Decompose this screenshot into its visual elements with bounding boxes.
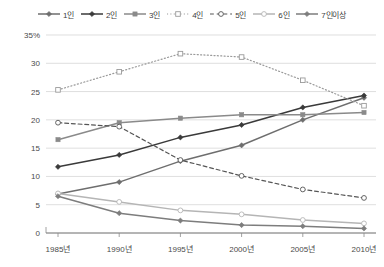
data-point [301,113,305,117]
data-point [239,143,244,148]
data-point [133,12,137,16]
series-line [55,95,366,196]
y-axis-tick-label: 0 [36,229,40,238]
data-point [117,179,122,184]
data-point [56,120,61,125]
data-point [178,135,183,140]
data-point [239,222,244,227]
legend-marker-icon [38,9,60,19]
data-point [362,196,367,201]
legend-item-5[interactable]: 5인 [210,9,246,20]
y-axis-tick-label: 10 [31,172,40,181]
data-point [262,12,267,17]
x-axis-labels: 1985년1990년1995년2000년2005년2010년 [46,240,376,260]
data-point [301,78,306,83]
legend-marker-icon [296,9,318,19]
legend-marker-icon [81,9,103,19]
data-point [117,152,122,157]
legend-label: 7인이상 [321,9,346,20]
data-point [362,110,366,114]
series-line [56,51,367,108]
data-point [361,226,366,231]
x-axis-tick-label: 1990년 [107,243,132,254]
data-point [300,224,305,229]
data-point [300,187,305,192]
data-point [176,12,181,17]
x-axis-tick-label: 1995년 [168,243,193,254]
legend-item-4[interactable]: 4인 [167,9,203,20]
y-axis-tick-label: 35% [24,31,40,40]
line-chart: 1인2인3인4인5인6인7인이상 05101520253035% 1985년19… [0,0,384,267]
legend-label: 5인 [235,9,246,20]
data-point [362,103,367,108]
series-path [58,96,364,167]
y-axis-tick-label: 5 [36,200,40,209]
data-point [178,116,182,120]
data-point [117,69,122,74]
data-point [56,88,61,93]
data-point [362,221,367,226]
series-path [58,98,364,194]
data-point [219,12,224,17]
data-point [55,164,60,169]
y-axis-labels: 05101520253035% [0,28,44,240]
legend-item-3[interactable]: 3인 [124,9,160,20]
data-point [117,124,122,129]
data-point [239,173,244,178]
data-point [178,208,183,213]
data-point [239,55,244,60]
series-path [58,123,364,198]
data-point [46,11,51,16]
legend-item-1[interactable]: 1인 [38,9,74,20]
data-point [56,138,60,142]
legend-marker-icon [253,9,275,19]
x-axis-tick-label: 2000년 [229,243,254,254]
data-point [239,122,244,127]
data-point [300,218,305,223]
data-point [239,212,244,217]
data-point [178,51,183,56]
data-point [117,199,122,204]
x-axis-tick-label: 2005년 [290,243,315,254]
data-point [300,105,305,110]
y-axis-tick-label: 15 [31,144,40,153]
x-axis-tick-label: 2010년 [352,243,377,254]
legend-label: 2인 [106,9,117,20]
legend-item-2[interactable]: 2인 [81,9,117,20]
series-path [58,54,364,106]
data-point [117,211,122,216]
plot-area [46,35,376,233]
legend-marker-icon [124,9,146,19]
y-axis-tick-label: 25 [31,87,40,96]
legend-item-7[interactable]: 7인이상 [296,9,346,20]
y-axis-tick-label: 20 [31,115,40,124]
data-point [240,113,244,117]
chart-legend: 1인2인3인4인5인6인7인이상 [0,4,384,24]
y-axis-tick-label: 30 [31,59,40,68]
data-point [89,11,94,16]
legend-label: 3인 [149,9,160,20]
series-path [58,113,364,140]
series-line [56,110,366,141]
legend-marker-icon [210,9,232,19]
legend-label: 6인 [278,9,289,20]
data-point [178,158,183,163]
data-point [300,117,305,122]
data-point [178,218,183,223]
series-line [55,93,366,169]
legend-item-6[interactable]: 6인 [253,9,289,20]
data-point [305,11,310,16]
legend-marker-icon [167,9,189,19]
series-line [56,120,367,200]
legend-label: 4인 [192,9,203,20]
x-axis-tick-label: 1985년 [46,243,71,254]
legend-label: 1인 [63,9,74,20]
